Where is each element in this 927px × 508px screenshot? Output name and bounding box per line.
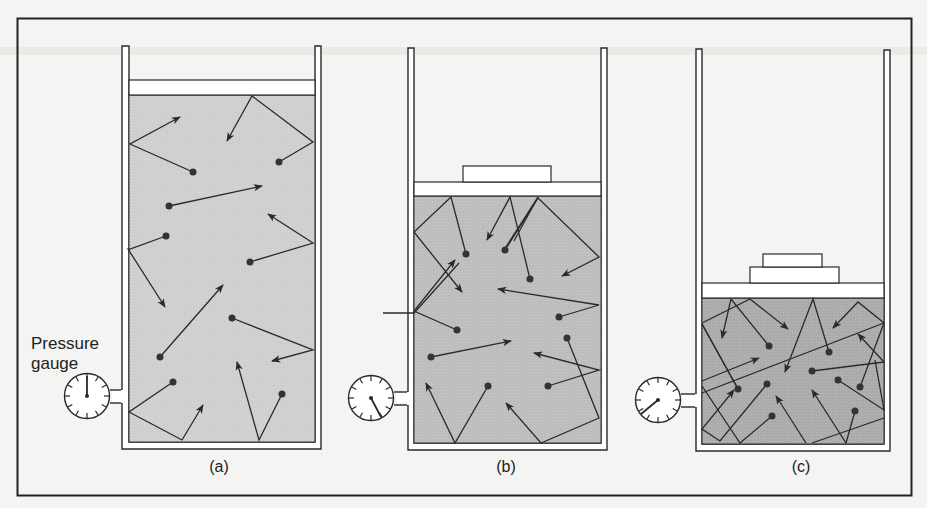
panel-a [65, 46, 322, 449]
diagram-canvas [0, 0, 927, 508]
gauge-label-line2: gauge [31, 355, 78, 372]
weight-b [463, 166, 551, 182]
gauge-label-line1: Pressure [31, 335, 99, 352]
gas-pressure-diagram: Pressure gauge (a) (b) (c) [0, 0, 927, 508]
panel-b [349, 48, 608, 450]
scan-smudge [0, 47, 927, 55]
pressure-gauge-a [65, 374, 110, 419]
panel-c [636, 49, 891, 451]
piston-a [129, 80, 315, 95]
weight-c-bottom [750, 267, 839, 283]
weight-c-top [763, 254, 822, 267]
piston-c [702, 283, 884, 298]
pressure-gauge-c [636, 378, 681, 423]
caption-a: (a) [209, 458, 229, 476]
caption-b: (b) [496, 458, 516, 476]
pressure-gauge-b [349, 376, 394, 421]
caption-c: (c) [792, 458, 811, 476]
piston-b [414, 182, 601, 196]
